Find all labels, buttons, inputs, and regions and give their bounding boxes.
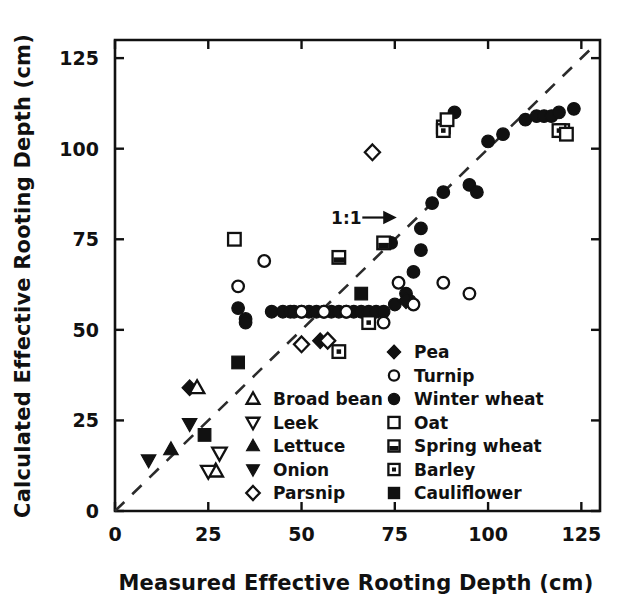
data-point: [333, 345, 346, 358]
legend-item-lettuce[interactable]: Lettuce: [247, 436, 346, 456]
legend-marker-leek-icon: [247, 418, 260, 429]
legend-item-oat[interactable]: Oat: [388, 413, 448, 433]
y-tick-label: 0: [86, 500, 99, 522]
series-onion: [141, 419, 197, 468]
legend-item-cauliflower[interactable]: Cauliflower: [388, 483, 522, 503]
data-point: [497, 128, 510, 141]
data-point: [482, 135, 495, 148]
series-barley: [333, 124, 566, 358]
y-tick-label: 125: [59, 47, 99, 69]
legend-item-broad-bean[interactable]: Broad bean: [247, 389, 383, 409]
data-point: [258, 255, 270, 267]
figure-container: 0255075100125 0255075100125 1:1 Broad be…: [0, 0, 636, 613]
legend-label: Barley: [414, 460, 475, 480]
legend-item-spring-wheat[interactable]: Spring wheat: [388, 436, 541, 456]
data-point: [471, 186, 484, 199]
data-point: [239, 316, 252, 329]
legend-item-pea[interactable]: Pea: [387, 342, 449, 362]
x-tick-label: 75: [382, 523, 408, 545]
series-spring-wheat: [333, 121, 569, 264]
y-axis-tick-labels: 0255075100125: [59, 47, 99, 522]
data-point: [560, 128, 573, 141]
data-point: [333, 251, 346, 264]
annotation-1-to-1-label: 1:1: [331, 208, 361, 228]
data-point: [164, 442, 178, 455]
legend-marker-oat-icon: [388, 417, 399, 428]
data-point: [393, 277, 405, 289]
data-point: [232, 356, 245, 369]
legend-column-left: Broad beanLeekLettuceOnionParsnip: [246, 389, 383, 503]
legend-item-leek[interactable]: Leek: [247, 413, 319, 433]
y-tick-label: 50: [73, 319, 99, 341]
x-tick-label: 125: [562, 523, 602, 545]
legend-label: Winter wheat: [414, 389, 544, 409]
x-tick-label: 50: [288, 523, 314, 545]
legend-marker-pea-icon: [387, 345, 400, 359]
data-point: [141, 455, 155, 468]
legend-marker-spring-wheat-icon: [388, 440, 399, 451]
legend-label: Lettuce: [273, 436, 345, 456]
data-point: [182, 419, 196, 432]
data-point: [232, 281, 244, 293]
legend-label: Pea: [414, 342, 449, 362]
data-point: [294, 336, 309, 352]
legend-item-parsnip[interactable]: Parsnip: [246, 483, 345, 503]
data-point: [198, 429, 211, 442]
data-point: [407, 266, 420, 279]
legend-item-onion[interactable]: Onion: [247, 460, 330, 480]
legend-marker-onion-icon: [247, 465, 260, 476]
data-point: [415, 244, 428, 257]
legend-label: Onion: [273, 460, 329, 480]
data-point: [408, 299, 420, 311]
data-point: [318, 306, 330, 318]
legend-item-barley[interactable]: Barley: [388, 460, 475, 480]
data-point: [441, 113, 454, 126]
legend-column-right: PeaTurnipWinter wheatOatSpring wheatBarl…: [387, 342, 543, 503]
data-point: [341, 306, 353, 318]
data-point: [437, 186, 450, 199]
legend-label: Oat: [414, 413, 448, 433]
series-lettuce: [164, 442, 178, 455]
legend-label: Turnip: [414, 366, 474, 386]
data-point: [212, 448, 226, 461]
legend-marker-cauliflower-icon: [388, 487, 399, 498]
x-tick-label: 25: [195, 523, 221, 545]
scatter-plot: 0255075100125 0255075100125 1:1 Broad be…: [0, 0, 636, 613]
data-point: [426, 197, 439, 210]
one-to-one-annotation: 1:1: [331, 208, 394, 228]
legend-marker-barley-icon: [388, 464, 399, 475]
x-tick-label: 0: [108, 523, 121, 545]
data-point: [438, 277, 450, 289]
y-tick-label: 25: [73, 409, 99, 431]
legend-marker-parsnip-icon: [246, 486, 259, 500]
legend-item-winter-wheat[interactable]: Winter wheat: [388, 389, 543, 409]
annotation-arrow-head: [384, 213, 394, 223]
legend-label: Broad bean: [273, 389, 383, 409]
data-point: [568, 103, 581, 116]
x-axis-title: Measured Effective Rooting Depth (cm): [119, 571, 594, 595]
data-point: [464, 288, 476, 300]
legend-marker-turnip-icon: [389, 370, 399, 380]
legend-marker-lettuce-icon: [247, 439, 260, 450]
data-point: [377, 237, 390, 250]
legend-item-turnip[interactable]: Turnip: [389, 366, 474, 386]
data-point: [378, 317, 390, 329]
legend-label: Parsnip: [273, 483, 345, 503]
x-axis-tick-labels: 0255075100125: [108, 523, 601, 545]
data-point: [415, 222, 428, 235]
y-tick-label: 100: [59, 138, 99, 160]
legend-label: Spring wheat: [414, 436, 542, 456]
y-axis-title: Calculated Effective Rooting Depth (cm): [11, 34, 35, 518]
data-point: [232, 302, 245, 315]
data-point: [296, 306, 308, 318]
data-point: [362, 316, 375, 329]
legend-marker-winter-wheat-icon: [388, 393, 399, 404]
legend-label: Leek: [273, 413, 319, 433]
data-point: [228, 233, 241, 246]
legend-label: Cauliflower: [414, 483, 522, 503]
series-oat: [228, 113, 573, 245]
data-point: [553, 106, 566, 119]
legend: Broad beanLeekLettuceOnionParsnipPeaTurn…: [246, 342, 543, 503]
y-tick-label: 75: [73, 228, 99, 250]
x-tick-label: 100: [468, 523, 508, 545]
